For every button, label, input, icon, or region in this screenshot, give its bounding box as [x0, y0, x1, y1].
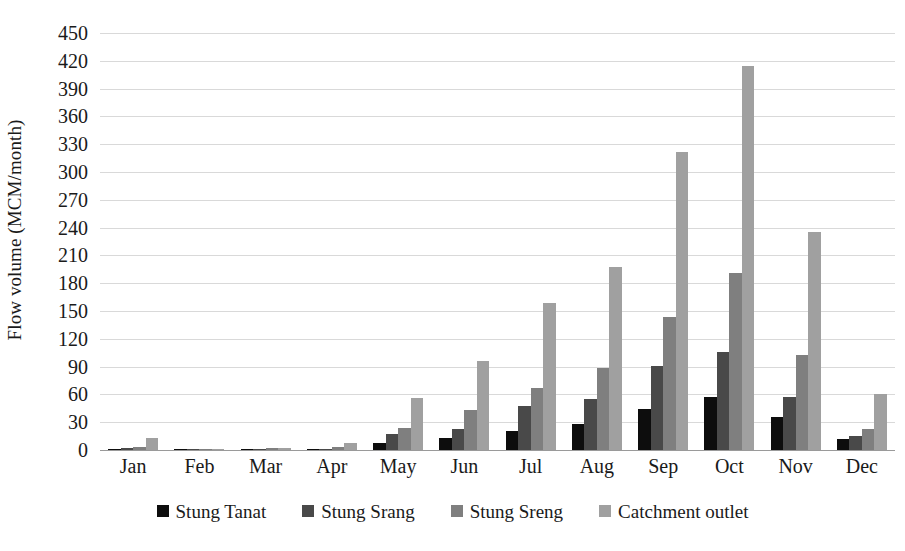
bar — [332, 447, 345, 450]
bar — [278, 448, 291, 450]
bar — [506, 431, 519, 450]
x-tick-label: Jun — [450, 452, 478, 480]
bar — [663, 317, 676, 450]
bar — [373, 443, 386, 450]
bar — [717, 352, 730, 450]
bar-group — [696, 33, 762, 450]
legend-label: Catchment outlet — [618, 502, 748, 521]
x-tick-label: Aug — [580, 452, 614, 480]
bar — [597, 368, 610, 450]
y-tick-label: 90 — [68, 357, 88, 377]
legend-item: Stung Tanat — [157, 502, 267, 521]
bar — [439, 438, 452, 450]
x-tick-label: Dec — [846, 452, 878, 480]
x-tick-label: Sep — [648, 452, 678, 480]
bar — [199, 449, 212, 450]
legend-label: Stung Tanat — [176, 502, 267, 521]
x-tick-label: Oct — [715, 452, 744, 480]
chart-legend: Stung TanatStung SrangStung SrengCatchme… — [0, 494, 905, 528]
axis-line-zero — [100, 450, 895, 451]
legend-swatch-icon — [302, 505, 314, 517]
y-tick-label: 0 — [78, 440, 88, 460]
bar — [212, 449, 225, 450]
x-tick-label: Mar — [249, 452, 282, 480]
bar — [638, 409, 651, 450]
bar-chart: Flow volume (MCM/month) 0306090120150180… — [0, 0, 905, 551]
bar — [477, 361, 490, 450]
bar — [187, 449, 200, 450]
bars-layer — [100, 33, 895, 450]
bar-group — [431, 33, 497, 450]
bar — [146, 438, 159, 450]
y-tick-label: 60 — [68, 384, 88, 404]
bar — [771, 417, 784, 450]
bar — [411, 398, 424, 450]
bar — [808, 232, 821, 450]
legend-item: Catchment outlet — [599, 502, 748, 521]
y-tick-label: 360 — [58, 106, 88, 126]
y-tick-label: 390 — [58, 79, 88, 99]
bar — [849, 436, 862, 450]
bar — [319, 449, 332, 450]
bar — [307, 449, 320, 450]
bar — [729, 273, 742, 450]
bar — [837, 439, 850, 450]
x-tick-label: Jan — [120, 452, 147, 480]
bar — [253, 449, 266, 450]
bar — [518, 406, 531, 450]
legend-label: Stung Srang — [321, 502, 414, 521]
bar-group — [166, 33, 232, 450]
bar — [386, 434, 399, 450]
bar-group — [100, 33, 166, 450]
y-axis-title-text: Flow volume (MCM/month) — [4, 120, 26, 341]
bar — [241, 449, 254, 450]
bar-group — [233, 33, 299, 450]
y-tick-label: 450 — [58, 23, 88, 43]
x-tick-label: Jul — [519, 452, 542, 480]
y-tick-label: 420 — [58, 51, 88, 71]
bar — [464, 410, 477, 450]
bar — [452, 429, 465, 450]
bar — [704, 397, 717, 450]
y-tick-label: 300 — [58, 162, 88, 182]
bar — [543, 303, 556, 450]
bar — [531, 388, 544, 450]
bar-group — [564, 33, 630, 450]
legend-label: Stung Sreng — [470, 502, 563, 521]
bar — [783, 397, 796, 450]
bar — [133, 447, 146, 450]
bar — [651, 366, 664, 450]
bar — [796, 355, 809, 450]
bar — [584, 399, 597, 450]
bar — [121, 448, 134, 450]
bar — [344, 443, 357, 450]
bar-group — [299, 33, 365, 450]
bar — [609, 267, 622, 450]
bar — [742, 66, 755, 450]
plot-area — [100, 33, 895, 450]
bar — [676, 152, 689, 450]
bar — [572, 424, 585, 450]
y-tick-label: 150 — [58, 301, 88, 321]
bar — [874, 394, 887, 450]
x-axis-tick-labels: JanFebMarAprMayJunJulAugSepOctNovDec — [100, 452, 895, 484]
bar-group — [829, 33, 895, 450]
bar — [862, 429, 875, 450]
bar — [174, 449, 187, 450]
legend-item: Stung Srang — [302, 502, 414, 521]
y-tick-label: 330 — [58, 134, 88, 154]
bar-group — [498, 33, 564, 450]
legend-item: Stung Sreng — [451, 502, 563, 521]
y-tick-label: 210 — [58, 245, 88, 265]
bar-group — [763, 33, 829, 450]
x-tick-label: Nov — [778, 452, 812, 480]
bar-group — [365, 33, 431, 450]
bar — [398, 428, 411, 450]
y-tick-label: 120 — [58, 329, 88, 349]
legend-swatch-icon — [157, 505, 169, 517]
y-tick-label: 30 — [68, 412, 88, 432]
bar — [108, 449, 121, 450]
x-tick-label: May — [380, 452, 417, 480]
y-tick-label: 240 — [58, 218, 88, 238]
x-tick-label: Apr — [316, 452, 347, 480]
